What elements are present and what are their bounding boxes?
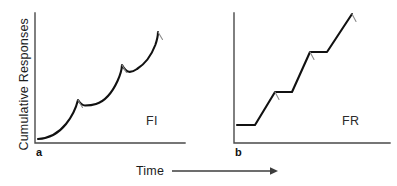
- panel-a-letter: a: [36, 147, 42, 158]
- panel-b-reinforcement-mark-3: [352, 14, 356, 22]
- cumulative-record-figure: Cumulative Responses Time FI FR a b: [0, 0, 397, 186]
- x-axis-label: Time: [136, 165, 164, 178]
- panel-a-fixed-interval: [35, 13, 185, 143]
- figure-canvas: [0, 0, 397, 186]
- time-axis-arrow: [172, 167, 278, 175]
- panel-a-axes: [35, 13, 185, 143]
- panel-b-letter: b: [235, 147, 242, 158]
- panel-b-reinforcement-mark-2: [310, 52, 314, 60]
- panel-b-fixed-ratio: [234, 13, 390, 143]
- panel-a-schedule-label: FI: [146, 115, 158, 128]
- y-axis-label: Cumulative Responses: [18, 14, 31, 154]
- panel-a-fi-curve: [38, 32, 158, 139]
- panel-b-axes: [234, 13, 390, 143]
- time-arrow-head: [270, 167, 278, 175]
- panel-b-reinforcement-mark-1: [275, 92, 279, 100]
- panel-b-schedule-label: FR: [342, 115, 359, 128]
- panel-b-fr-curve: [237, 14, 352, 125]
